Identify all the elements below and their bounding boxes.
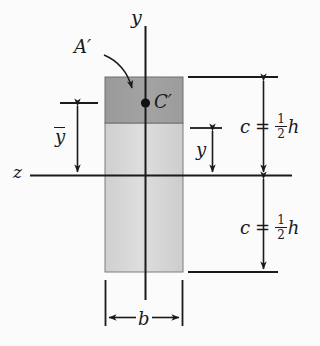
c-top-expression: c = 1 2 h <box>240 113 299 140</box>
y-axis-label: y <box>131 8 142 27</box>
c-bottom-fraction: 1 2 <box>275 214 287 241</box>
c-top-fraction: 1 2 <box>275 113 287 140</box>
c-top-numerator: 1 <box>275 113 287 126</box>
partial-area-label: A′ <box>74 38 91 56</box>
c-bottom-equals: = <box>255 217 270 238</box>
c-top-denominator: 2 <box>275 126 287 140</box>
c-bottom-numerator: 1 <box>275 214 287 227</box>
section-lower-region <box>105 123 183 272</box>
c-bottom-variable: h <box>288 217 300 238</box>
c-bottom-symbol: c <box>240 217 250 238</box>
c-top-variable: h <box>288 116 300 137</box>
z-axis-label: z <box>13 164 22 181</box>
c-bottom-denominator: 2 <box>275 227 287 241</box>
c-top-equals: = <box>255 116 270 137</box>
ybar-label: y <box>55 127 65 146</box>
c-top-symbol: c <box>240 116 250 137</box>
diagram-svg <box>0 0 320 346</box>
figure-canvas: y z A′ C′ y y b c = 1 2 h c = 1 2 h <box>0 0 320 346</box>
width-label: b <box>138 310 150 328</box>
centroid-label: C′ <box>154 93 172 111</box>
ybar-overbar-text: y <box>55 127 65 146</box>
c-bottom-expression: c = 1 2 h <box>240 214 299 241</box>
centroid-marker-dot <box>141 98 150 107</box>
y-distance-label: y <box>196 141 206 159</box>
